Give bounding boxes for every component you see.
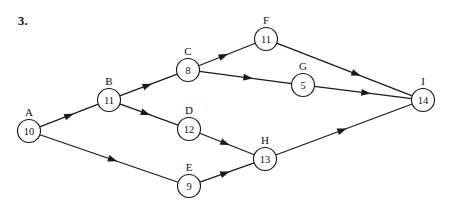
edge-a-to-e (40, 135, 178, 183)
edge-arrowhead (142, 84, 152, 91)
edge-e-to-h (200, 163, 254, 182)
node-label: D (185, 104, 193, 116)
node-value: 14 (418, 95, 429, 106)
nodes-layer: 10A11B8C12D9E11F5G13H14I (18, 14, 435, 198)
node-d[interactable]: 12D (178, 104, 201, 141)
node-label: G (299, 60, 307, 72)
node-label: F (263, 14, 269, 26)
node-a[interactable]: 10A (18, 106, 41, 143)
node-value: 9 (186, 181, 191, 192)
diagram-page: 3. 10A11B8C12D9E11F5G13H14I (0, 0, 458, 217)
node-g[interactable]: 5G (292, 60, 315, 97)
edges-layer (40, 43, 413, 182)
activity-network-diagram: 10A11B8C12D9E11F5G13H14I (0, 0, 458, 217)
edge-arrowhead (220, 138, 230, 145)
node-value: 10 (24, 126, 35, 137)
node-b[interactable]: 11B (98, 75, 121, 112)
node-value: 12 (184, 124, 195, 135)
edge-arrowhead (220, 172, 230, 178)
edge-arrowhead (337, 128, 347, 135)
edge-c-to-f (199, 43, 256, 66)
node-label: A (25, 106, 33, 118)
node-label: C (184, 45, 191, 57)
edge-arrowhead (361, 89, 371, 96)
edge-b-to-d (120, 104, 178, 125)
node-value: 13 (260, 154, 271, 165)
node-label: I (421, 75, 425, 87)
node-value: 11 (261, 34, 271, 45)
node-e[interactable]: 9E (178, 161, 201, 198)
node-label: H (261, 134, 269, 146)
node-h[interactable]: 13H (254, 134, 277, 171)
edge-c-to-g (199, 71, 291, 83)
edge-arrowhead (218, 54, 228, 61)
edge-arrowhead (107, 155, 117, 161)
edge-g-to-i (314, 86, 411, 98)
edge-arrowhead (243, 74, 253, 81)
node-label: B (105, 75, 112, 87)
edge-arrowhead (351, 69, 361, 76)
node-label: E (186, 161, 193, 173)
edge-h-to-i (276, 104, 412, 155)
node-c[interactable]: 8C (177, 45, 200, 82)
node-i[interactable]: 14I (412, 75, 435, 112)
edge-arrowhead (140, 108, 150, 114)
edge-d-to-h (200, 133, 255, 155)
edge-b-to-c (120, 74, 177, 96)
edge-a-to-b (40, 104, 99, 127)
node-f[interactable]: 11F (255, 14, 278, 51)
edge-arrowhead (64, 114, 74, 121)
node-value: 8 (185, 65, 190, 76)
node-value: 5 (300, 80, 305, 91)
node-value: 11 (104, 95, 114, 106)
